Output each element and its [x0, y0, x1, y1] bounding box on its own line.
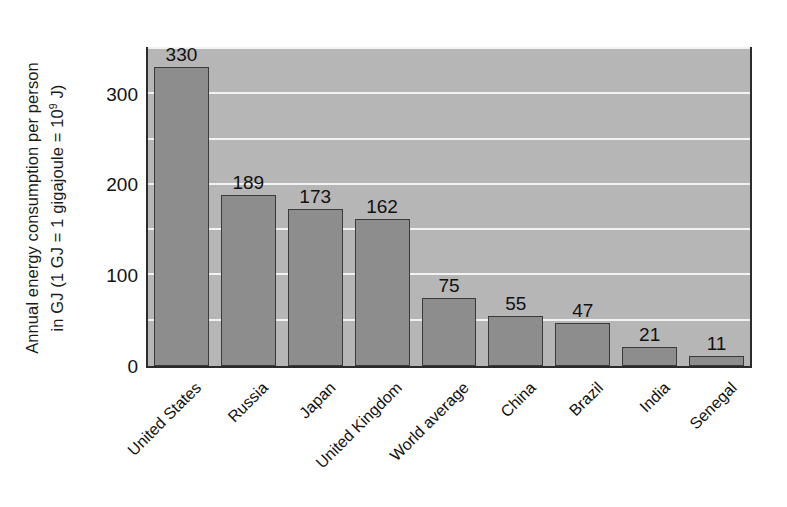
- y-axis-title-line-2: in GJ (1 GJ = 1 gigajoule = 109 J): [45, 62, 70, 354]
- bar-slot: 11: [689, 49, 744, 366]
- bar[interactable]: [288, 209, 343, 366]
- bar-value-label: 162: [341, 197, 424, 216]
- plot-area: 3301891731627555472111: [146, 47, 752, 368]
- bar[interactable]: [689, 356, 744, 366]
- bar[interactable]: [622, 347, 677, 366]
- bar-slot: 189: [221, 49, 276, 366]
- x-axis-label-brazil: Brazil: [566, 376, 610, 420]
- y-axis-title-line-1: Annual energy consumption per person: [20, 62, 45, 354]
- bar-slot: 75: [422, 49, 477, 366]
- bar-slot: 330: [154, 49, 209, 366]
- bar-value-label: 11: [675, 334, 758, 353]
- y-axis-title: Annual energy consumption per person in …: [16, 38, 74, 378]
- plot-inner: 3301891731627555472111: [148, 49, 750, 366]
- y-tick-label-0: 0: [82, 357, 138, 376]
- bar[interactable]: [555, 323, 610, 366]
- bar[interactable]: [221, 195, 276, 366]
- x-axis-category-labels: United StatesRussiaJapanUnited KingdomWo…: [146, 368, 752, 507]
- x-axis-label-russia: Russia: [225, 376, 275, 426]
- y-axis-tick-labels: 0100200300: [82, 0, 138, 507]
- bar-series: 3301891731627555472111: [148, 49, 750, 366]
- bar-value-label: 47: [541, 301, 624, 320]
- x-axis-label-japan: Japan: [296, 376, 342, 422]
- bar[interactable]: [154, 67, 209, 366]
- bar-value-label: 75: [408, 276, 491, 295]
- y-axis-title-text: Annual energy consumption per person in …: [20, 62, 70, 354]
- bar-slot: 162: [355, 49, 410, 366]
- y-tick-label-300: 300: [82, 85, 138, 104]
- y-tick-label-200: 200: [82, 175, 138, 194]
- bar-slot: 47: [555, 49, 610, 366]
- bar[interactable]: [422, 298, 477, 366]
- bar-slot: 173: [288, 49, 343, 366]
- bar-slot: 55: [488, 49, 543, 366]
- y-tick-label-100: 100: [82, 266, 138, 285]
- bar-slot: 21: [622, 49, 677, 366]
- bar[interactable]: [355, 219, 410, 366]
- x-axis-label-china: China: [497, 376, 542, 421]
- x-axis-label-senegal: Senegal: [686, 376, 743, 433]
- bar-chart-figure: Annual energy consumption per person in …: [0, 0, 787, 507]
- y-axis-title-line-2-pre: in GJ (1 GJ = 1 gigajoule = 10: [48, 109, 66, 331]
- y-axis-title-line-2-post: J): [48, 85, 66, 104]
- x-axis-label-india: India: [636, 376, 676, 416]
- bar-value-label: 330: [140, 45, 223, 64]
- y-axis-title-exponent: 9: [47, 103, 59, 109]
- bar[interactable]: [488, 316, 543, 366]
